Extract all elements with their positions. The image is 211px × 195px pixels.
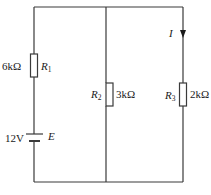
r3-value-label: 2kΩ: [190, 88, 209, 100]
r1-name-label: R1: [40, 60, 52, 74]
current-label: I: [168, 27, 174, 39]
resistor-r2: [106, 83, 113, 106]
resistor-r1: [31, 54, 38, 77]
battery-voltage-label: 12V: [5, 132, 24, 144]
r1-value-label: 6kΩ: [2, 60, 21, 72]
circuit-diagram: 6kΩ R1 R2 3kΩ R3 2kΩ 12V E I: [0, 0, 211, 195]
r2-name-label: R2: [90, 88, 102, 102]
resistor-r3: [180, 83, 187, 106]
battery-name-label: E: [47, 130, 55, 142]
r2-value-label: 3kΩ: [116, 88, 135, 100]
current-arrow-icon: [180, 30, 186, 38]
r3-name-label: R3: [164, 89, 176, 103]
